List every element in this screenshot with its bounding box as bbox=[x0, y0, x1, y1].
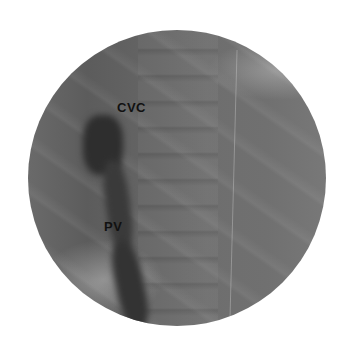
spine-shadow bbox=[138, 30, 218, 326]
fluoroscopy-image bbox=[28, 30, 326, 326]
label-pv: PV bbox=[104, 219, 122, 234]
label-cvc: CVC bbox=[117, 100, 146, 115]
